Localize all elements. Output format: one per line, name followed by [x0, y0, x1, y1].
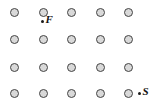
grid-node [39, 89, 48, 98]
grid-node [96, 89, 105, 98]
grid-node [39, 63, 48, 72]
finish-point-label: F [46, 14, 53, 25]
start-point-label: S [143, 86, 149, 97]
grid-node [10, 8, 19, 17]
grid-node [39, 35, 48, 44]
grid-figure: F S [0, 0, 155, 102]
finish-point-dot [41, 20, 44, 23]
grid-node [67, 63, 76, 72]
grid-node [96, 8, 105, 17]
grid-node [10, 63, 19, 72]
grid-node [124, 89, 133, 98]
start-point-dot [138, 92, 141, 95]
grid-node [96, 63, 105, 72]
grid-node [124, 63, 133, 72]
grid-node [124, 35, 133, 44]
grid-node [124, 8, 133, 17]
grid-node [67, 35, 76, 44]
grid-node [67, 89, 76, 98]
grid-node [10, 89, 19, 98]
grid-node [67, 8, 76, 17]
grid-node [10, 35, 19, 44]
grid-node [96, 35, 105, 44]
